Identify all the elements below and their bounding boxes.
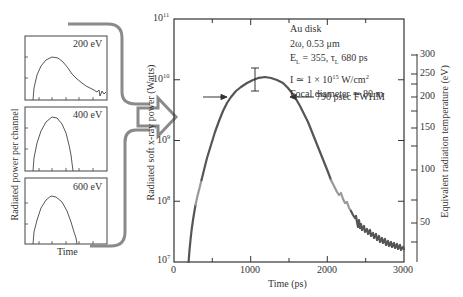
inset-curve-600ev	[33, 196, 77, 244]
temp-tick-200: 200	[420, 90, 435, 101]
inset-label-600ev: 600 eV	[73, 181, 102, 192]
temp-tick-100: 100	[420, 163, 435, 174]
inset-label-200ev: 200 eV	[73, 38, 102, 49]
x-tick-3000: 3000	[393, 264, 413, 275]
temp-tick-50: 50	[420, 216, 430, 227]
x-tick-1000: 1000	[240, 264, 260, 275]
y-axis-label: Radiated soft x-ray power (Watts)	[145, 43, 156, 223]
annotation-sample: Au disk	[290, 22, 383, 37]
temp-tick-250: 250	[420, 67, 435, 78]
temperature-axis-label: Equivalent radiation temperature (eV)	[439, 47, 450, 237]
power-curve	[189, 77, 404, 262]
inset-curve-400ev	[33, 117, 73, 171]
y-tick-1e9: 109	[157, 133, 170, 145]
annotation-fwhm: 790 psec FWHM	[316, 90, 385, 105]
inset-curve-200ev	[33, 57, 106, 100]
y-tick-1e8: 108	[157, 194, 170, 206]
y-tick-1e7: 107	[157, 253, 170, 265]
inset-label-400ev: 400 eV	[73, 109, 102, 120]
annotation-intensity: I ≃ 1 × 1015 W/cm2	[290, 70, 383, 88]
inset-y-label: Radiated power per channel	[9, 100, 20, 230]
annotation-energy: EL = 355, τL 680 ps	[290, 51, 383, 70]
x-tick-0: 0	[171, 264, 176, 275]
temperature-axis	[411, 54, 417, 262]
inset-x-label: Time	[57, 246, 78, 257]
temp-tick-150: 150	[420, 121, 435, 132]
bracket-connectors	[68, 24, 150, 246]
y-tick-1e11: 1011	[153, 11, 169, 23]
x-axis-label: Time (ps)	[268, 278, 307, 289]
annotation-wavelength: 2ω, 0.53 μm	[290, 37, 383, 52]
x-tick-2000: 2000	[317, 264, 337, 275]
temp-tick-300: 300	[420, 48, 435, 59]
y-tick-1e10: 1010	[153, 72, 170, 84]
